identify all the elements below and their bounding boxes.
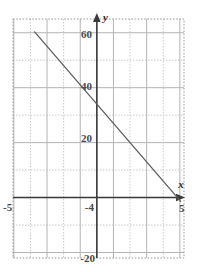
y-axis-label: y <box>101 11 108 23</box>
coordinate-graph: 60 40 20 -20 -5 -4 5 y x <box>0 0 202 272</box>
x-tick-label-4: -4 <box>85 201 95 213</box>
x-tick-label-5: 5 <box>179 202 185 214</box>
y-tick-label-20: 20 <box>81 132 93 144</box>
y-tick-label-60: 60 <box>81 28 93 40</box>
y-tick-label-40: 40 <box>81 80 93 92</box>
y-tick-label-neg20: -20 <box>80 252 95 264</box>
graph-canvas: 60 40 20 -20 -5 -4 5 y x <box>0 0 202 272</box>
x-tick-label-neg5: -5 <box>3 201 13 213</box>
x-axis-label: x <box>177 178 184 190</box>
